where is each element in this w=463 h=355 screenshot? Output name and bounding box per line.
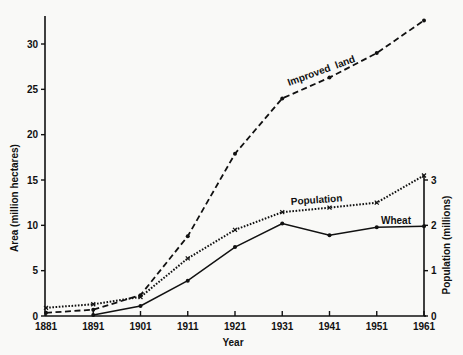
dot-marker-icon (233, 245, 237, 249)
series-group (44, 18, 426, 317)
dot-marker-icon (186, 234, 190, 238)
x-tick-label: 1941 (318, 321, 341, 332)
series-line-improved-land (46, 20, 424, 312)
y2-tick-label: 0 (431, 311, 437, 322)
label-population: Population (290, 192, 342, 207)
label-wheat: Wheat (381, 215, 412, 226)
dot-marker-icon (375, 225, 379, 229)
y-tick-label: 30 (27, 39, 39, 50)
x-tick-label: 1931 (271, 321, 294, 332)
x-axis: 188118911901191119211931194119511961 Yea… (35, 311, 436, 348)
dot-marker-icon (328, 233, 332, 237)
x-tick-label: 1961 (413, 321, 436, 332)
dot-marker-icon (186, 279, 190, 283)
x-axis-title: Year (222, 337, 243, 348)
dot-marker-icon (91, 308, 95, 312)
x-tick-label: 1921 (224, 321, 247, 332)
series-labels: Improved land Population Wheat (286, 53, 412, 226)
x-tick-label: 1881 (35, 321, 58, 332)
y-tick-label: 20 (27, 129, 39, 140)
dot-marker-icon (233, 152, 237, 156)
x-tick-label: 1911 (177, 321, 199, 332)
y-tick-label: 15 (27, 175, 39, 186)
dot-marker-icon (280, 96, 284, 100)
dot-marker-icon (375, 51, 379, 55)
dot-marker-icon (44, 311, 48, 315)
label-improved-land: Improved land (286, 53, 357, 88)
y2-tick-label: 1 (431, 265, 437, 276)
dot-marker-icon (139, 304, 143, 308)
left-axis-title: Area (million hectares) (9, 144, 20, 252)
y-tick-label: 25 (27, 84, 39, 95)
x-tick-label: 1901 (129, 321, 152, 332)
y2-tick-label: 2 (431, 220, 437, 231)
dot-marker-icon (422, 224, 426, 228)
x-tick-label: 1891 (82, 321, 105, 332)
dot-marker-icon (280, 222, 284, 226)
series-line-wheat (93, 224, 424, 316)
y2-tick-label: 3 (431, 175, 437, 186)
y-tick-label: 10 (27, 220, 39, 231)
dot-marker-icon (328, 76, 332, 80)
y-tick-label: 5 (32, 265, 38, 276)
dot-marker-icon (422, 18, 426, 22)
right-axis: 0123 Population (millions) (424, 175, 452, 322)
y-tick-label: 0 (32, 311, 38, 322)
left-axis: 051015202530 Area (million hectares) (9, 16, 45, 322)
right-axis-ticks: 0123 (424, 175, 437, 322)
line-chart: 051015202530 Area (million hectares) 012… (0, 0, 463, 355)
series-line-population (46, 175, 424, 307)
right-axis-title: Population (millions) (441, 196, 452, 295)
dot-marker-icon (91, 313, 95, 317)
left-axis-ticks: 051015202530 (27, 39, 45, 322)
x-tick-label: 1951 (366, 321, 389, 332)
